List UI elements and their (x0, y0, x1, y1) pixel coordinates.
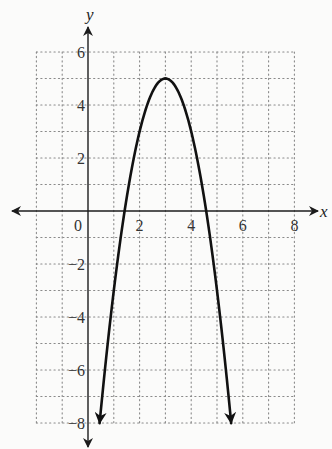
y-tick-label: −6 (68, 362, 85, 379)
y-axis-label: y (84, 5, 94, 24)
x-axis-label: x (319, 202, 328, 221)
x-tick-label: 2 (136, 217, 144, 234)
y-tick-label: 6 (77, 44, 85, 61)
y-tick-label: −4 (68, 309, 85, 326)
y-tick-label: 4 (77, 97, 85, 114)
parabola-left-branch (100, 79, 166, 424)
x-tick-label: 6 (239, 217, 247, 234)
x-tick-label: 0 (74, 217, 82, 234)
x-tick-label: 4 (187, 217, 195, 234)
y-tick-label: 2 (77, 150, 85, 167)
y-tick-label: −8 (68, 415, 85, 432)
tick-labels: xy02468642−2−4−6−8 (68, 5, 328, 432)
graph-figure: xy02468642−2−4−6−8 (0, 0, 332, 449)
x-tick-label: 8 (290, 217, 298, 234)
parabola-right-branch (165, 79, 231, 424)
y-tick-label: −2 (68, 256, 85, 273)
